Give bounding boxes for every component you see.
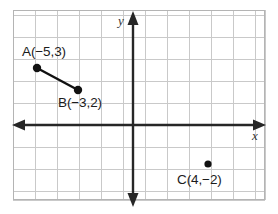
grid-background [13,10,265,200]
point-c-dot [204,160,211,167]
point-c-label: C(4,−2) [177,172,222,187]
point-b-label: B(−3,2) [58,95,102,110]
point-a-dot [33,64,41,72]
graph-canvas: x y A(−5,3) B(−3,2) C(4,−2) [0,0,278,214]
point-a-label: A(−5,3) [22,44,66,59]
coordinate-plane-figure: x y A(−5,3) B(−3,2) C(4,−2) [0,0,278,214]
x-axis-label: x [251,128,258,143]
point-b-dot [74,86,82,94]
y-axis-label: y [116,13,124,28]
